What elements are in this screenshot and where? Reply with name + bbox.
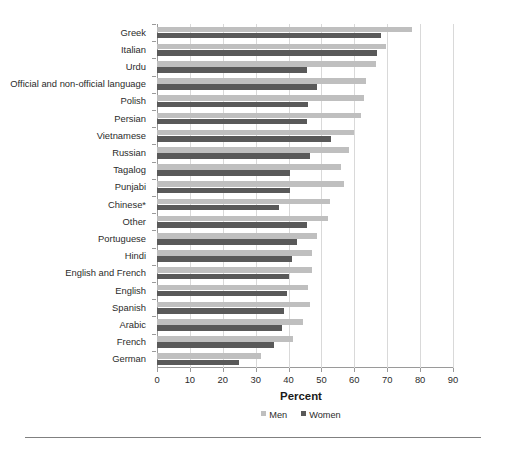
bar-women <box>157 222 307 228</box>
x-axis-ticks: 0102030405060708090 <box>157 372 453 386</box>
bar-women <box>157 360 239 366</box>
bar-men <box>157 336 293 342</box>
y-axis-tick <box>152 230 156 231</box>
y-axis-label: English <box>0 286 146 295</box>
bar-group <box>157 58 453 75</box>
y-axis-label: Italian <box>0 45 146 54</box>
x-axis-tick <box>387 368 388 372</box>
y-axis-label: Russian <box>0 148 146 157</box>
x-axis-title: Percent <box>0 390 506 402</box>
y-axis-tick <box>152 196 156 197</box>
bar-women <box>157 274 289 280</box>
bar-women <box>157 102 308 108</box>
bar-women <box>157 256 292 262</box>
bar-group <box>157 213 453 230</box>
bar-men <box>157 61 376 67</box>
y-axis-label: Greek <box>0 28 146 37</box>
legend-item[interactable]: Women <box>301 409 341 420</box>
bar-group <box>157 265 453 282</box>
bar-women <box>157 84 317 90</box>
bar-women <box>157 239 297 245</box>
x-axis-tick-label: 40 <box>283 374 293 385</box>
y-axis-label: Other <box>0 217 146 226</box>
bar-men <box>157 78 366 84</box>
y-axis-tick <box>152 41 156 42</box>
y-axis-label: Portuguese <box>0 234 146 243</box>
bar-men <box>157 250 312 256</box>
bar-women <box>157 188 290 194</box>
x-axis-tick-label: 50 <box>316 374 326 385</box>
y-axis-label: Polish <box>0 96 146 105</box>
y-axis-tick <box>152 127 156 128</box>
bar-men <box>157 216 328 222</box>
bar-women <box>157 153 310 159</box>
bar-women <box>157 325 282 331</box>
bottom-divider <box>25 437 481 438</box>
bar-men <box>157 181 344 187</box>
bar-men <box>157 164 341 170</box>
bar-men <box>157 233 317 239</box>
y-axis-label: Punjabi <box>0 182 146 191</box>
legend-label: Men <box>269 410 287 420</box>
bar-group <box>157 144 453 161</box>
x-axis-tick <box>321 368 322 372</box>
bar-group <box>157 230 453 247</box>
x-axis-tick <box>190 368 191 372</box>
plot-area <box>157 24 453 368</box>
y-axis-tick <box>152 282 156 283</box>
bar-group <box>157 24 453 41</box>
y-axis-label: Persian <box>0 114 146 123</box>
bar-men <box>157 44 386 50</box>
bar-men <box>157 302 310 308</box>
bar-women <box>157 342 274 348</box>
y-axis-tick <box>152 58 156 59</box>
y-axis-tick <box>152 213 156 214</box>
y-axis-tick <box>152 351 156 352</box>
y-axis-tick <box>152 179 156 180</box>
y-axis-label: Vietnamese <box>0 131 146 140</box>
bar-men <box>157 147 349 153</box>
legend-swatch-icon <box>301 411 306 416</box>
x-axis-tick <box>354 368 355 372</box>
bar-group <box>157 179 453 196</box>
bar-men <box>157 319 303 325</box>
legend-item[interactable]: Men <box>261 409 287 420</box>
legend-label: Women <box>309 410 341 420</box>
y-axis-tick <box>152 334 156 335</box>
x-axis-tick-label: 30 <box>250 374 260 385</box>
y-axis-label: German <box>0 354 146 363</box>
x-axis-tick-label: 70 <box>382 374 392 385</box>
bar-group <box>157 127 453 144</box>
x-axis-tick-label: 0 <box>154 374 159 385</box>
bar-group <box>157 316 453 333</box>
y-axis-tick <box>152 265 156 266</box>
y-axis-tick <box>152 110 156 111</box>
bar-women <box>157 170 290 176</box>
y-axis-labels: GreekItalianUrduOfficial and non-officia… <box>0 24 152 368</box>
x-axis-tick <box>453 368 454 372</box>
x-axis-tick <box>256 368 257 372</box>
y-axis-tick <box>152 144 156 145</box>
x-axis-title-text: Percent <box>280 390 322 402</box>
y-axis-tick <box>152 24 156 25</box>
y-axis-tick <box>152 316 156 317</box>
y-axis-label: French <box>0 337 146 346</box>
x-axis-tick <box>223 368 224 372</box>
x-axis-tick-label: 10 <box>185 374 195 385</box>
x-axis-tick-label: 20 <box>218 374 228 385</box>
legend-swatch-icon <box>261 411 266 416</box>
bar-women <box>157 136 331 142</box>
y-axis-tick <box>152 93 156 94</box>
y-axis-label: English and French <box>0 268 146 277</box>
bar-men <box>157 199 330 205</box>
bar-women <box>157 67 307 73</box>
x-axis-tick-label: 80 <box>415 374 425 385</box>
bar-men <box>157 27 412 33</box>
bar-men <box>157 267 312 273</box>
bar-group <box>157 248 453 265</box>
y-axis-tick <box>152 76 156 77</box>
bar-women <box>157 205 279 211</box>
chart-legend: MenWomen <box>0 409 506 420</box>
bar-group <box>157 162 453 179</box>
bar-men <box>157 130 354 136</box>
